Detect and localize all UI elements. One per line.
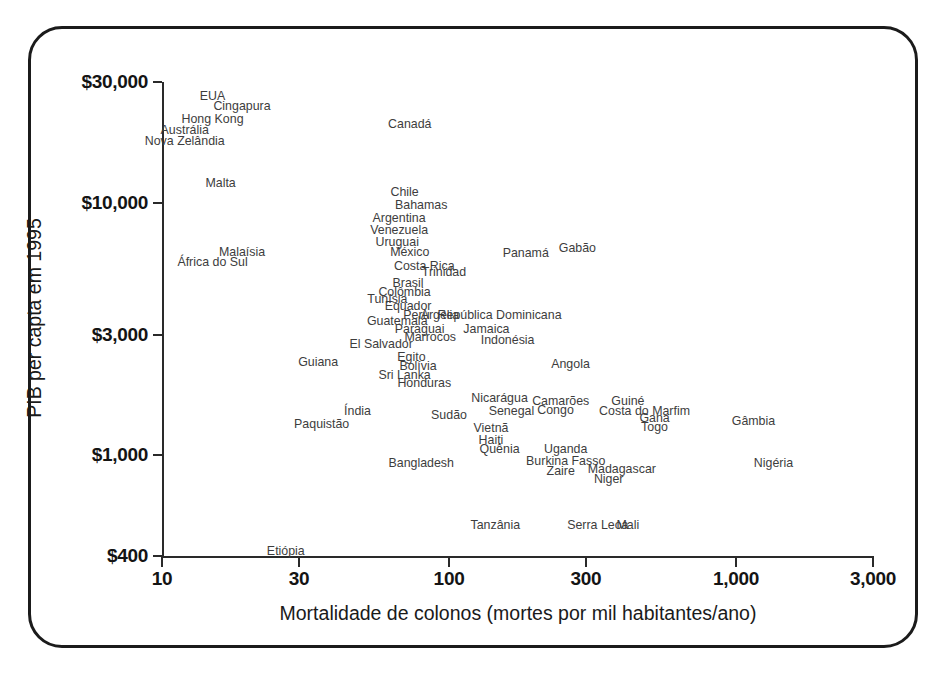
y-tick-mark bbox=[153, 202, 162, 204]
x-tick-mark bbox=[585, 557, 587, 567]
data-point-label: Zaire bbox=[547, 464, 575, 476]
x-axis-title: Mortalidade de colonos (mortes por mil h… bbox=[162, 602, 874, 625]
data-point-label: Paquistão bbox=[294, 418, 349, 430]
data-point-label: Quênia bbox=[480, 443, 520, 455]
data-point-label: El Salvador bbox=[349, 338, 412, 350]
data-point-label: Canadá bbox=[388, 118, 431, 130]
data-point-label: Malta bbox=[205, 176, 235, 188]
x-tick-mark bbox=[161, 557, 163, 567]
data-point-label: Bangladesh bbox=[388, 457, 453, 469]
data-point-label: Honduras bbox=[397, 377, 451, 389]
data-point-label: Índia bbox=[344, 405, 371, 417]
data-point-label: Senegal bbox=[489, 405, 534, 417]
x-tick-label: 300 bbox=[571, 568, 602, 590]
data-point-label: Angola bbox=[551, 358, 590, 370]
data-point-label: Nigéria bbox=[754, 457, 793, 469]
y-tick-label: $10,000 bbox=[81, 192, 148, 214]
data-point-label: Gabão bbox=[559, 242, 596, 254]
x-tick-label: 10 bbox=[152, 568, 173, 590]
y-tick-label: $1,000 bbox=[92, 444, 148, 466]
data-point-label: Panamá bbox=[503, 247, 549, 259]
data-point-label: Tanzânia bbox=[471, 519, 521, 531]
x-tick-label: 100 bbox=[434, 568, 465, 590]
data-point-label: Gâmbia bbox=[732, 415, 775, 427]
data-point-label: Trinidad bbox=[422, 266, 466, 278]
y-tick-label: $30,000 bbox=[81, 71, 148, 93]
x-tick-label: 1,000 bbox=[713, 568, 759, 590]
data-point-label: Niger bbox=[594, 472, 624, 484]
y-tick-label: $3,000 bbox=[92, 324, 148, 346]
data-point-label: México bbox=[390, 245, 429, 257]
scatter-plot: $30,000$10,000$3,000$1,000$400 103010030… bbox=[0, 0, 944, 679]
data-point-label: Mali bbox=[617, 519, 640, 531]
y-axis-line bbox=[162, 82, 164, 557]
data-point-label: Chile bbox=[390, 186, 418, 198]
data-point-label: Sudão bbox=[431, 408, 467, 420]
data-point-label: Togo bbox=[641, 420, 668, 432]
x-tick-label: 3,000 bbox=[850, 568, 896, 590]
chart-screenshot: $30,000$10,000$3,000$1,000$400 103010030… bbox=[0, 0, 944, 679]
y-tick-mark bbox=[153, 454, 162, 456]
data-point-label: República Dominicana bbox=[438, 309, 562, 321]
data-point-label: África do Sul bbox=[177, 256, 247, 268]
x-tick-mark bbox=[448, 557, 450, 567]
y-tick-mark bbox=[153, 334, 162, 336]
y-tick-label: $400 bbox=[107, 545, 148, 567]
data-point-label: Congo bbox=[537, 404, 574, 416]
y-tick-mark bbox=[153, 81, 162, 83]
data-point-label: Indonésia bbox=[481, 334, 535, 346]
x-tick-mark bbox=[735, 557, 737, 567]
data-point-label: Nova Zelândia bbox=[145, 135, 225, 147]
y-axis-title: PIB per capta em 1995 bbox=[23, 218, 46, 417]
data-point-label: Guiana bbox=[298, 355, 338, 367]
x-tick-mark bbox=[298, 557, 300, 567]
x-tick-mark bbox=[872, 557, 874, 567]
data-point-label: Bahamas bbox=[395, 199, 447, 211]
data-point-label: Etiópia bbox=[267, 544, 305, 556]
x-tick-label: 30 bbox=[289, 568, 310, 590]
